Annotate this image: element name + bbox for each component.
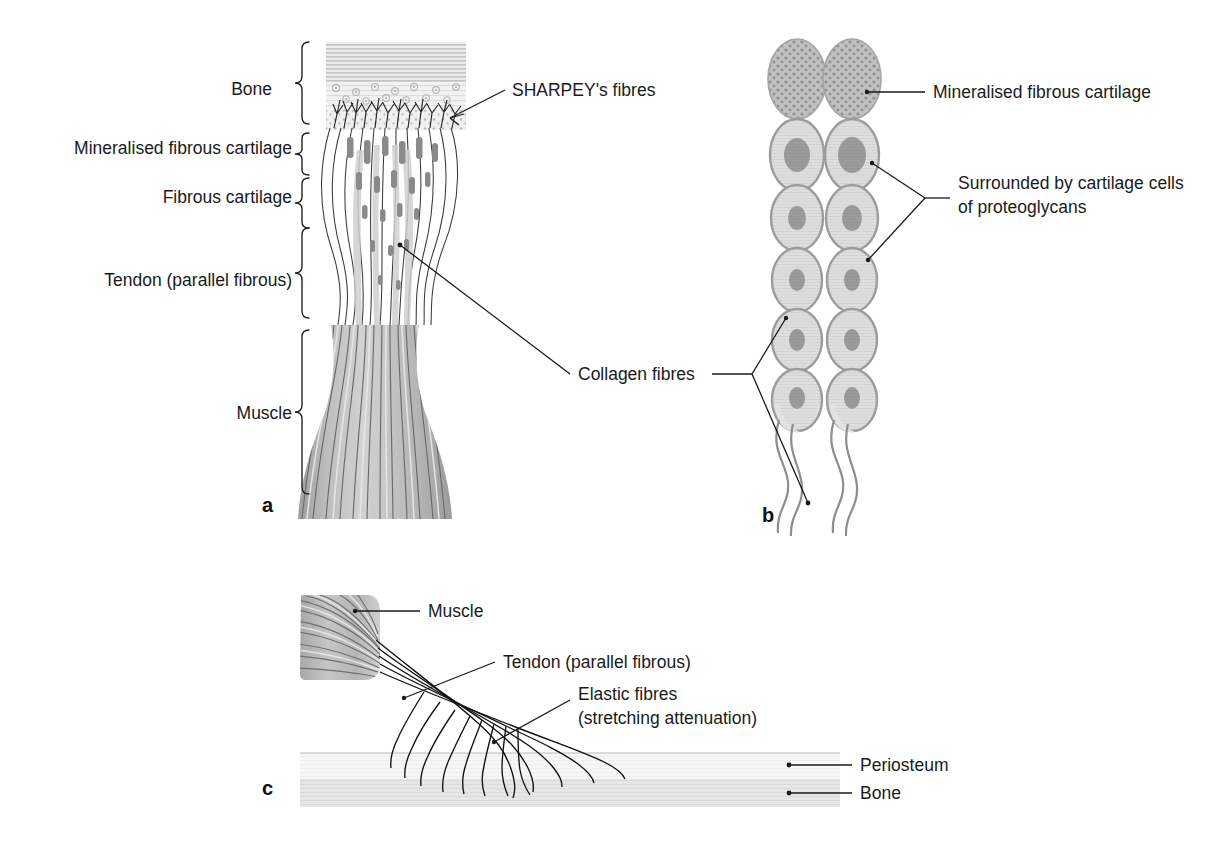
label-bone-a: Bone xyxy=(231,79,272,99)
panel-c: Muscle Tendon (parallel fibrous) Elastic… xyxy=(262,595,949,807)
brace-bone xyxy=(295,42,309,124)
cartilage-cells-b xyxy=(770,119,879,432)
label-elastic-fibres-line1: Elastic fibres xyxy=(578,684,677,704)
label-mineralised-fibrous-cartilage-a: Mineralised fibrous cartilage xyxy=(74,138,292,158)
bone-block-a xyxy=(326,42,466,130)
label-bone-c: Bone xyxy=(860,783,901,803)
label-collagen-fibres: Collagen fibres xyxy=(578,364,695,384)
cartilage-nucleus xyxy=(789,387,805,409)
callout-proteoglycans-b: Surrounded by cartilage cells of proteog… xyxy=(866,161,1184,262)
cartilage-nucleus xyxy=(842,205,862,231)
callout-elastic-fibres-c: Elastic fibres (stretching attenuation) xyxy=(492,684,757,744)
cartilage-nucleus xyxy=(844,329,860,351)
cartilage-nucleus xyxy=(788,206,806,230)
panel-a: Bone Mineralised fibrous cartilage Fibro… xyxy=(74,42,656,519)
label-proteoglycans-line1: Surrounded by cartilage cells xyxy=(958,173,1184,193)
periosteum-anchor xyxy=(787,763,792,768)
collagen-anchor-fibre xyxy=(806,501,811,506)
proteoglycan-anchor-upper xyxy=(870,161,874,165)
periosteum-band xyxy=(300,753,840,779)
collagen-fibres-b xyxy=(776,420,857,536)
figure-tendon-insertion: Bone Mineralised fibrous cartilage Fibro… xyxy=(0,0,1230,846)
mineralised-cell-right xyxy=(823,39,881,119)
label-tendon-a: Tendon (parallel fibrous) xyxy=(104,270,292,290)
mineralised-cells-b xyxy=(768,39,881,119)
label-fibrous-cartilage-a: Fibrous cartilage xyxy=(163,187,292,207)
label-periosteum: Periosteum xyxy=(860,755,949,775)
callout-sharpeys-fibres: SHARPEY's fibres xyxy=(450,80,656,125)
mineralised-cell-left xyxy=(768,39,826,119)
bone-compact-zone xyxy=(326,42,466,82)
muscle-fill-a xyxy=(298,325,452,519)
panel-label-a: a xyxy=(262,494,274,516)
callout-collagen-fibres-a xyxy=(398,243,570,374)
cartilage-nucleus xyxy=(789,329,805,351)
label-muscle-c: Muscle xyxy=(428,601,483,621)
label-sharpeys-fibres: SHARPEY's fibres xyxy=(512,80,656,100)
panel-b: Mineralised fibrous cartilage Surrounded… xyxy=(578,39,1184,536)
panel-label-b: b xyxy=(762,504,774,526)
cartilage-nucleus xyxy=(784,138,810,172)
bone-anchor-c xyxy=(787,791,792,796)
cartilage-nucleus xyxy=(789,269,805,291)
elastic-anchor-c xyxy=(492,740,496,744)
brace-fibrous-cartilage xyxy=(295,178,309,228)
label-proteoglycans-line2: of proteoglycans xyxy=(958,197,1087,217)
collagen-anchor-cell xyxy=(784,316,788,320)
label-tendon-c: Tendon (parallel fibrous) xyxy=(503,652,691,672)
label-elastic-fibres-line2: (stretching attenuation) xyxy=(578,708,757,728)
mineralised-anchor xyxy=(865,90,869,94)
label-muscle-a: Muscle xyxy=(237,403,292,423)
callout-mineralised-fibrous-cartilage-b: Mineralised fibrous cartilage xyxy=(865,82,1151,102)
collagen-anchor-a xyxy=(398,243,403,248)
muscle-belly-a xyxy=(298,325,452,519)
muscle-block-c xyxy=(298,595,384,680)
brace-tendon xyxy=(295,228,309,318)
label-mineralised-fibrous-cartilage-b: Mineralised fibrous cartilage xyxy=(933,82,1151,102)
brace-mineralised xyxy=(295,133,309,175)
cartilage-nucleus xyxy=(844,269,860,291)
panel-label-c: c xyxy=(262,777,273,799)
bone-band xyxy=(300,779,840,807)
brace-group-a xyxy=(295,42,309,494)
figure-canvas: Bone Mineralised fibrous cartilage Fibro… xyxy=(0,0,1230,846)
cartilage-nucleus xyxy=(838,137,866,173)
tendon-anchor-c xyxy=(402,696,406,700)
bone-bands-c xyxy=(300,753,840,807)
proteoglycan-anchor-lower xyxy=(866,258,870,262)
cartilage-nucleus xyxy=(844,387,860,409)
muscle-anchor-c xyxy=(353,609,357,613)
tendon-fibre-bundles-a xyxy=(322,128,458,325)
